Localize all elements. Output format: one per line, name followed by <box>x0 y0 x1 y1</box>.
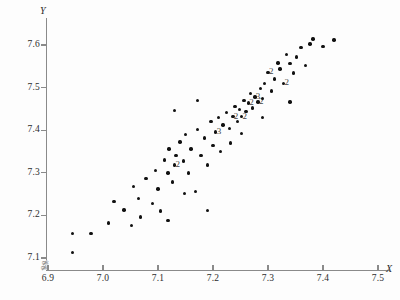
data-point <box>263 82 266 85</box>
data-point <box>151 202 154 205</box>
data-point <box>221 123 224 126</box>
data-point <box>167 147 170 150</box>
data-point <box>292 71 295 74</box>
y-tick-label: 7.4 <box>14 124 40 134</box>
y-tick-label: 7.6 <box>14 39 40 49</box>
y-tick-label-wrap: 7.5 <box>8 82 40 93</box>
data-point <box>156 187 159 190</box>
data-point <box>154 169 157 172</box>
x-tick-label: 7.3 <box>251 273 285 283</box>
data-point <box>244 110 247 113</box>
data-point <box>285 53 288 56</box>
point-multiplicity-label: 3 <box>217 127 222 136</box>
y-tick-label: 7.1 <box>14 252 40 262</box>
y-tick-label-wrap: 7.6 <box>8 39 40 50</box>
data-point <box>174 154 177 157</box>
point-multiplicity-label: 2 <box>176 160 181 169</box>
x-tick-mark <box>47 265 48 271</box>
data-point <box>187 171 190 174</box>
y-tick-label: 7.3 <box>14 167 40 177</box>
data-point <box>233 105 236 108</box>
data-point <box>183 192 186 195</box>
x-tick-mark <box>267 265 268 271</box>
data-point <box>139 215 142 218</box>
y-tick-label-wrap: 7.4 <box>8 124 40 135</box>
y-tick-label: 7.2 <box>14 209 40 219</box>
data-point <box>163 158 166 161</box>
data-point <box>261 97 264 100</box>
data-point <box>259 87 262 90</box>
data-point <box>295 55 298 58</box>
y-tick-label-wrap: 7.2 <box>8 209 40 220</box>
x-tick-mark <box>212 265 213 271</box>
data-point <box>278 67 281 70</box>
y-tick-label: 7.5 <box>14 82 40 92</box>
y-tick-label-wrap: 7.3 <box>8 167 40 178</box>
data-point <box>184 133 187 136</box>
data-point <box>166 219 169 222</box>
x-tick-label: 7.5 <box>361 273 395 283</box>
data-point <box>321 45 324 48</box>
y-tick-mark <box>41 44 47 45</box>
data-point <box>249 92 252 95</box>
data-point <box>171 180 174 183</box>
y-axis-title: Y <box>40 5 46 16</box>
data-point <box>209 120 212 123</box>
data-point <box>228 127 231 130</box>
y-tick-mark <box>41 87 47 88</box>
data-point <box>122 208 125 211</box>
data-point <box>71 232 74 235</box>
data-point <box>273 77 276 80</box>
data-point <box>229 141 232 144</box>
data-point <box>182 159 185 162</box>
data-point <box>288 100 291 103</box>
data-point <box>236 120 239 123</box>
x-tick-label: 7.0 <box>86 273 120 283</box>
y-tick-mark <box>41 130 47 131</box>
data-point <box>166 171 169 174</box>
data-point <box>238 108 241 111</box>
data-point <box>270 89 273 92</box>
x-axis-line <box>46 270 390 271</box>
data-point <box>194 190 197 193</box>
x-tick-mark <box>157 265 158 271</box>
point-multiplicity-label: 2 <box>269 67 274 76</box>
data-point <box>276 61 279 64</box>
point-multiplicity-label: 2 <box>284 78 289 87</box>
x-tick-mark <box>322 265 323 271</box>
x-tick-label: 7.2 <box>196 273 230 283</box>
data-point <box>240 132 243 135</box>
data-point <box>242 99 245 102</box>
data-point <box>311 37 314 40</box>
data-point <box>196 128 199 131</box>
y-tick-mark <box>41 172 47 173</box>
data-point <box>132 185 135 188</box>
data-point <box>288 62 291 65</box>
data-point <box>137 197 140 200</box>
data-point <box>178 140 181 143</box>
data-point <box>308 42 311 45</box>
data-point <box>206 209 209 212</box>
data-point <box>304 64 307 67</box>
x-tick-label: 6.9 <box>31 273 65 283</box>
y-tick-mark <box>41 215 47 216</box>
scatter-plot-figure: Y X ≄ ≄ 7.17.27.37.47.57.6 6.97.07.17.27… <box>0 0 400 300</box>
y-tick-label-wrap: 7.1 <box>8 252 40 263</box>
data-point <box>299 46 302 49</box>
y-axis-line <box>46 18 47 260</box>
data-point <box>196 99 199 102</box>
data-point <box>217 116 220 119</box>
data-point <box>206 163 209 166</box>
data-point <box>159 209 162 212</box>
data-point <box>199 154 202 157</box>
data-point <box>261 116 264 119</box>
data-point <box>189 147 192 150</box>
data-point <box>112 200 115 203</box>
data-point <box>71 251 74 254</box>
x-tick-mark <box>377 265 378 271</box>
data-point <box>332 38 335 41</box>
data-point <box>211 144 214 147</box>
x-tick-label: 7.4 <box>306 273 340 283</box>
data-point <box>107 221 110 224</box>
data-point <box>203 136 206 139</box>
